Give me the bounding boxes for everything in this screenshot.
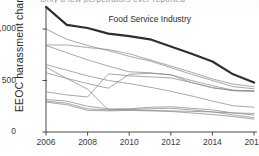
chart-figure: Only a few perpetrators ever reported EE… xyxy=(0,0,259,156)
series-annotation-food-service: Food Service Industry xyxy=(108,14,191,24)
series-line xyxy=(46,67,254,113)
series-line xyxy=(46,102,254,119)
series-line xyxy=(46,45,254,87)
series-line xyxy=(46,29,254,89)
series-line xyxy=(46,74,254,97)
series-line xyxy=(46,65,254,108)
